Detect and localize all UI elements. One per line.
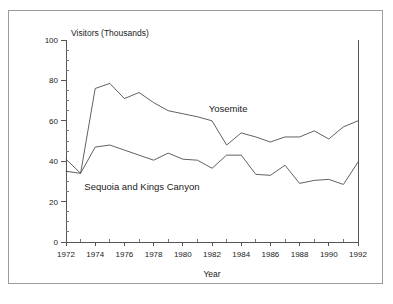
y-tick-label: 0 [54,238,59,247]
x-tick-label: 1978 [145,250,163,259]
y-tick-label: 60 [49,117,58,126]
x-axis-title: Year [203,269,220,279]
series-line-yosemite [66,83,358,173]
y-tick-label: 80 [49,76,58,85]
y-axis-title: Visitors (Thousands) [71,28,149,38]
y-tick-label: 40 [49,157,58,166]
chart-axes [66,40,358,242]
x-tick-label: 1982 [203,250,221,259]
y-tick-label: 100 [45,36,59,45]
y-tick-label: 20 [49,198,58,207]
series-label-sequoia-and-kings-canyon: Sequoia and Kings Canyon [84,181,199,192]
x-tick-label: 1974 [86,250,104,259]
series-label-yosemite: Yosemite [209,103,248,114]
x-tick-label: 1988 [291,250,309,259]
x-tick-label: 1984 [232,250,250,259]
x-tick-label: 1976 [116,250,134,259]
x-tick-label: 1972 [57,250,75,259]
line-chart: 0204060801001972197419761978198019821984… [0,0,393,304]
x-tick-label: 1980 [174,250,192,259]
x-tick-label: 1992 [349,250,367,259]
series-line-sequoia-and-kings-canyon [66,145,358,184]
x-tick-label: 1990 [320,250,338,259]
chart-figure: 0204060801001972197419761978198019821984… [0,0,393,304]
x-tick-label: 1986 [262,250,280,259]
